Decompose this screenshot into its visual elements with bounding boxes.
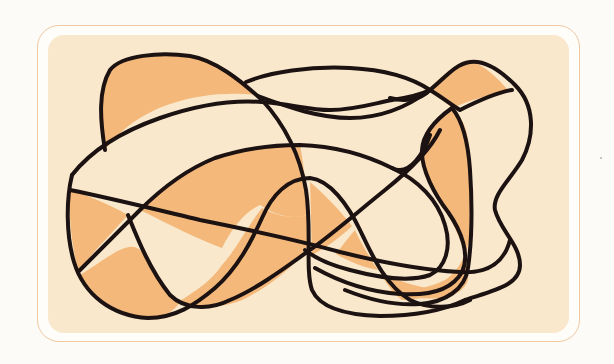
tangled-line-art: [0, 0, 614, 364]
illustration-stage: [0, 0, 614, 364]
dust-speck: [600, 157, 602, 159]
curve-c-lower: [258, 90, 430, 118]
